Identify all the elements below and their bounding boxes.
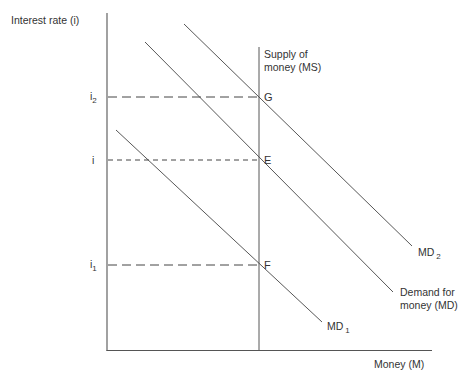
point-f-label: F (264, 259, 271, 271)
point-g-label: G (264, 91, 273, 103)
demand-label-line1: Demand for (400, 286, 455, 298)
rate-i1-label: i1 (90, 258, 97, 273)
md1-curve (116, 130, 322, 322)
demand-label-line2: money (MD) (400, 299, 458, 311)
md2-label: MD2 (418, 246, 441, 261)
supply-label-line1: Supply of (264, 48, 308, 60)
point-e-label: E (264, 154, 271, 166)
md1-label: MD1 (327, 320, 350, 335)
rate-i2-label: i2 (90, 90, 97, 105)
money-market-diagram: Interest rate (i) Money (M) Supply of mo… (0, 0, 468, 380)
rate-i-label: i (92, 154, 94, 166)
y-axis-label: Interest rate (i) (11, 14, 79, 26)
x-axis-label: Money (M) (374, 358, 424, 370)
md-curve (145, 42, 393, 292)
supply-label-line2: money (MS) (264, 61, 321, 73)
